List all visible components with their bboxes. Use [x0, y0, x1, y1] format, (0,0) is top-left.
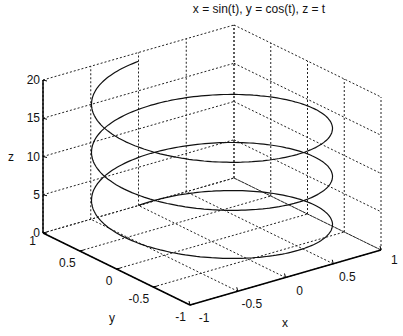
grid-line: [139, 206, 286, 278]
x-tick-label: 0.5: [339, 270, 356, 284]
x-axis-label: x: [282, 316, 288, 330]
z-tick-label: 10: [27, 150, 41, 164]
grid-lines: [43, 25, 381, 305]
y-tick-label: 0: [106, 274, 113, 288]
z-tick-label: 5: [33, 188, 40, 202]
x-tick-label: -1: [199, 311, 210, 325]
y-tick: [153, 286, 157, 287]
z-tick-label: 20: [27, 73, 41, 87]
x-tick-label: 0: [296, 284, 303, 298]
y-tick-label: 1: [29, 234, 36, 248]
z-tick-label: 15: [27, 111, 41, 125]
tick-labels: 05101520-1-0.500.51-1-0.500.51: [27, 73, 398, 325]
x-tick-label: 1: [391, 253, 398, 267]
helix-3d-plot: 05101520-1-0.500.51-1-0.500.51 x y z: [0, 0, 403, 336]
helix-curve: [92, 61, 333, 258]
grid-line: [80, 196, 271, 251]
y-tick: [80, 250, 84, 251]
y-tick-label: 0.5: [59, 256, 76, 270]
y-tick: [117, 268, 121, 269]
y-tick-label: -0.5: [129, 292, 150, 306]
y-tick-label: -1: [175, 310, 186, 324]
y-axis-label: y: [109, 311, 115, 325]
x-tick-label: -0.5: [241, 297, 262, 311]
z-axis-label: z: [8, 150, 14, 164]
grid-line: [234, 25, 381, 97]
